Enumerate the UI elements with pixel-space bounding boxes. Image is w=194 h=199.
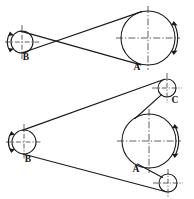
figure-bottom-open-belt-drive: C B A xyxy=(6,73,183,197)
label-c-bottom: C xyxy=(172,95,179,105)
belt-drive-diagram: B A xyxy=(0,0,194,199)
belt-strand-lower xyxy=(22,12,142,53)
figure-top-crossed-belt-drive: B A xyxy=(5,6,180,72)
belt-crossed-top xyxy=(21,12,142,65)
belt-strand-top xyxy=(23,79,165,130)
label-b-bottom: B xyxy=(25,154,32,164)
belt-open-bottom xyxy=(23,79,166,192)
rotation-arrow-head-a-top-lower xyxy=(171,50,177,55)
rotation-arrow-head-a-bottom-lower xyxy=(172,153,178,158)
rotation-arrow-head-a-top-upper xyxy=(171,21,177,26)
rotation-arrow-head-a-bottom-upper xyxy=(172,124,178,129)
pulley-idler-lower xyxy=(153,169,183,197)
label-a-bottom: A xyxy=(133,164,140,174)
belt-strand-bottom xyxy=(23,154,166,192)
label-b-top: B xyxy=(23,52,30,62)
pulley-a-bottom xyxy=(117,109,181,173)
diagram-canvas: B A xyxy=(0,0,194,199)
label-a-top: A xyxy=(134,62,141,72)
